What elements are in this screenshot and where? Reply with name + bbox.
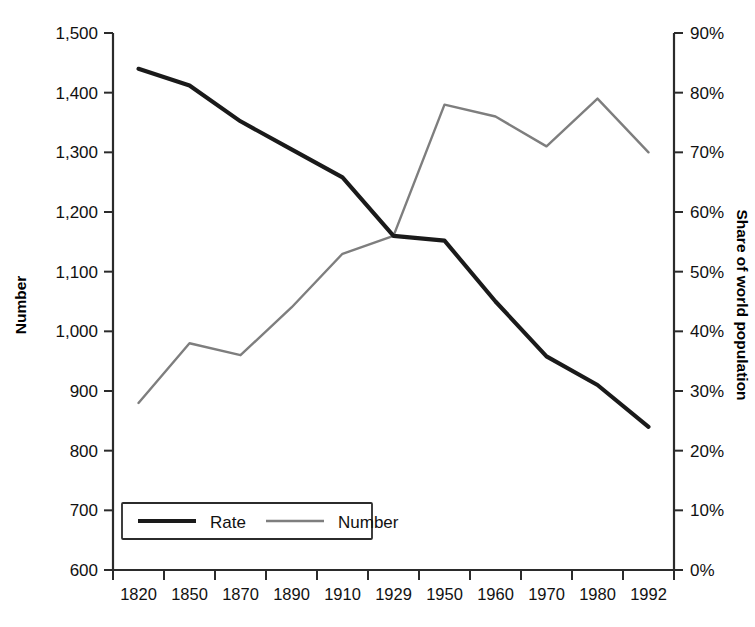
left-tick-label: 700: [70, 501, 98, 520]
x-tick-label: 1890: [273, 585, 310, 603]
legend-label-number: Number: [338, 513, 399, 532]
x-tick-label: 1910: [324, 585, 361, 603]
chart-container: 6007008009001,0001,1001,2001,3001,4001,5…: [0, 0, 755, 627]
x-tick-label: 1992: [630, 585, 667, 603]
x-tick-label: 1970: [528, 585, 565, 603]
x-tick-label: 1980: [579, 585, 616, 603]
left-tick-label: 900: [70, 382, 98, 401]
x-tick-label: 1950: [426, 585, 463, 603]
right-tick-label: 30%: [690, 382, 724, 401]
x-tick-label: 1929: [375, 585, 412, 603]
right-tick-label: 60%: [690, 203, 724, 222]
right-tick-label: 10%: [690, 501, 724, 520]
right-tick-label: 80%: [690, 84, 724, 103]
line-chart: 6007008009001,0001,1001,2001,3001,4001,5…: [0, 0, 755, 627]
right-tick-label: 0%: [690, 561, 715, 580]
left-tick-label: 1,100: [55, 263, 98, 282]
left-axis-title: Number: [12, 276, 29, 335]
left-tick-label: 1,400: [55, 84, 98, 103]
x-tick-label: 1850: [171, 585, 208, 603]
right-axis-title: Share of world population: [734, 209, 751, 400]
left-tick-label: 600: [70, 561, 98, 580]
right-tick-label: 70%: [690, 143, 724, 162]
x-axis-tick-labels: 1820185018701890191019291950196019701980…: [120, 585, 667, 603]
chart-legend: Rate Number: [122, 503, 399, 539]
left-tick-label: 1,000: [55, 322, 98, 341]
x-tick-label: 1960: [477, 585, 514, 603]
left-tick-label: 1,300: [55, 143, 98, 162]
left-tick-label: 1,500: [55, 24, 98, 43]
right-tick-label: 90%: [690, 24, 724, 43]
x-tick-label: 1870: [222, 585, 259, 603]
left-tick-label: 800: [70, 442, 98, 461]
x-tick-label: 1820: [120, 585, 157, 603]
left-tick-label: 1,200: [55, 203, 98, 222]
right-tick-label: 40%: [690, 322, 724, 341]
legend-label-rate: Rate: [210, 513, 246, 532]
right-tick-label: 50%: [690, 263, 724, 282]
right-tick-label: 20%: [690, 442, 724, 461]
